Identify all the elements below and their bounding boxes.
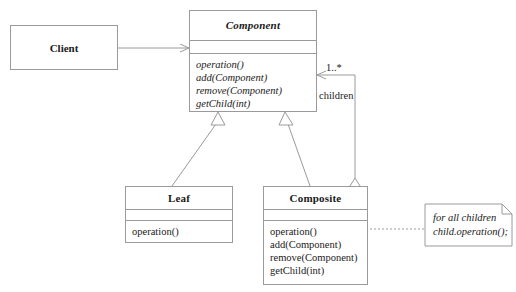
class-box-client[interactable]: Client [10,25,118,70]
operations-compartment-composite: operation() add(Component) remove(Compon… [264,220,367,280]
operation-item: getChild(int) [196,97,310,110]
note-text-block: for all children child.operation(); [433,211,508,239]
class-box-leaf[interactable]: Leaf operation() [125,186,233,243]
operation-item: remove(Component) [270,251,361,264]
class-title-component: Component [190,11,316,40]
aggregation-arrow-head [317,71,326,79]
operations-compartment-leaf: operation() [126,220,232,241]
class-box-composite[interactable]: Composite operation() add(Component) rem… [263,186,368,285]
aggregation-role-label: children [319,90,353,101]
attributes-compartment-leaf [126,209,232,220]
note-composite-operation[interactable]: for all children child.operation(); [425,204,512,246]
operation-item: operation() [132,225,226,238]
class-title-client: Client [11,42,117,54]
operation-item: add(Component) [270,238,361,251]
operation-item: operation() [196,58,310,71]
edge-composite-generalization-line [288,124,310,186]
composite-generalization-triangle [279,112,293,125]
note-line-2: child.operation(); [433,225,508,239]
operation-item: remove(Component) [196,84,310,97]
operations-compartment-component: operation() add(Component) remove(Compon… [190,53,316,113]
operation-item: getChild(int) [270,264,361,277]
uml-diagram-canvas: Component association (open arrow) --> C… [0,0,516,292]
attributes-compartment-composite [264,209,367,220]
note-line-1: for all children [433,211,508,225]
leaf-generalization-triangle [211,112,225,125]
operation-item: add(Component) [196,71,310,84]
attributes-compartment-component [190,40,316,53]
class-box-component[interactable]: Component operation() add(Component) rem… [189,10,317,112]
edge-leaf-generalization-line [172,124,216,186]
class-title-composite: Composite [264,187,367,209]
class-title-leaf: Leaf [126,187,232,209]
aggregation-multiplicity-label: 1..* [326,62,342,73]
operation-item: operation() [270,225,361,238]
